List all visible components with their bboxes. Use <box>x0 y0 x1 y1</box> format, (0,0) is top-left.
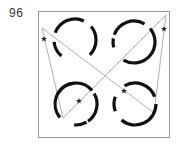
arc-segment <box>55 19 84 33</box>
arc-segment <box>114 21 144 35</box>
bottom-right-broken-circle <box>114 83 156 125</box>
arc-segment <box>113 38 114 47</box>
arc-segment <box>125 83 155 97</box>
puzzle-figure <box>0 0 179 145</box>
arc-segment <box>74 122 86 125</box>
arc-segment <box>122 104 156 125</box>
arc-segment <box>90 27 96 55</box>
arc-segment <box>124 29 156 63</box>
star-bottom-left-icon <box>76 98 82 104</box>
arc-segment <box>114 97 115 111</box>
arc-segment <box>88 94 97 122</box>
star-top-left-icon <box>41 36 47 42</box>
top-left-broken-circle <box>54 19 96 56</box>
bottom-left-broken-circle <box>55 83 97 125</box>
arc-segment <box>54 42 61 56</box>
arc-segment <box>55 83 72 117</box>
broken-circles <box>54 19 156 125</box>
top-right-broken-circle <box>113 21 155 63</box>
connecting-lines <box>42 15 166 118</box>
